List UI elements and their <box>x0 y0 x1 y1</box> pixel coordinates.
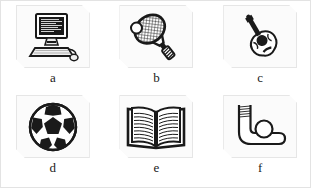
soccer-ball-icon <box>27 101 79 153</box>
grid-cell-b: b <box>105 5 209 95</box>
cell-label-d: d <box>50 161 57 175</box>
cell-label-b: b <box>153 71 160 85</box>
grid-cell-c: c <box>208 5 311 95</box>
hockey-stick-icon <box>229 102 291 152</box>
grid-cell-e: e <box>105 95 209 185</box>
grid-cell-d: d <box>1 95 105 185</box>
picture-card-e[interactable] <box>119 95 193 158</box>
tennis-racket-icon <box>127 11 185 63</box>
picture-card-d[interactable] <box>16 95 90 158</box>
cell-label-f: f <box>258 161 262 175</box>
picture-card-a[interactable] <box>16 5 90 68</box>
cell-label-a: a <box>50 71 56 85</box>
computer-icon <box>23 11 83 63</box>
open-book-icon <box>125 103 187 151</box>
picture-grid-page: a <box>0 0 311 188</box>
grid-cell-f: f <box>208 95 311 185</box>
guitar-icon <box>232 11 288 63</box>
grid-cell-a: a <box>1 5 105 95</box>
picture-card-f[interactable] <box>223 95 297 158</box>
picture-card-b[interactable] <box>119 5 193 68</box>
picture-grid: a <box>1 5 311 185</box>
picture-card-c[interactable] <box>223 5 297 68</box>
cell-label-c: c <box>257 71 263 85</box>
cell-label-e: e <box>154 161 160 175</box>
